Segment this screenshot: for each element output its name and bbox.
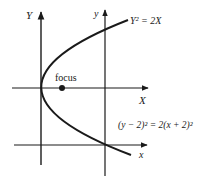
- original-equation: (y − 2)² = 2(x + 2)²: [118, 120, 193, 131]
- small-y-axis-label: y: [93, 8, 99, 19]
- focus-label: focus: [55, 72, 77, 83]
- parabola-diagram: Y y X x focus Y² = 2X (y − 2)² = 2(x + 2…: [0, 0, 216, 185]
- big-y-axis-label: Y: [26, 9, 34, 21]
- translated-equation: Y² = 2X: [130, 15, 162, 26]
- big-x-axis-label: X: [138, 94, 147, 106]
- focus-point: [59, 85, 65, 91]
- small-x-axis-label: x: [138, 149, 144, 160]
